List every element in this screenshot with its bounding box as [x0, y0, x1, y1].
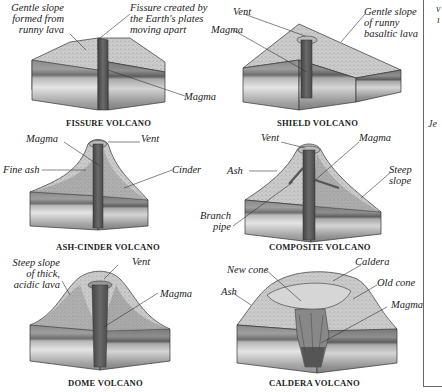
label-magma: Magma [211, 24, 243, 35]
cropped-text-fragment: ı [437, 14, 440, 25]
label-fissure: Fissure created by the Earth's plates mo… [130, 2, 207, 35]
caption-caldera-volcano: CALDERA VOLCANO [269, 378, 360, 388]
panel-dome-volcano: Steep slope of thick, acidic lava Vent M… [0, 255, 221, 392]
caption-shield-volcano: SHIELD VOLCANO [277, 118, 358, 128]
label-vent: Vent [233, 6, 251, 17]
label-new-cone: New cone [227, 264, 268, 275]
label-branch-pipe: Branch pipe [191, 210, 231, 232]
cropped-text-fragment: Je [428, 118, 437, 129]
label-old-cone: Old cone [377, 277, 415, 288]
panel-ash-cinder-volcano: Magma Vent Fine ash Cinder ASH-CINDER VO… [0, 130, 221, 255]
label-gentle-slope-basaltic: Gentle slope of runny basaltic lava [364, 6, 418, 39]
label-gentle-slope: Gentle slope formed from runny lava [4, 2, 64, 35]
adjacent-panel-border-bottom [423, 386, 442, 387]
ash-cinder-volcano-illustration [0, 130, 221, 255]
label-magma: Magma [160, 288, 192, 299]
label-magma: Magma [391, 299, 423, 310]
label-magma: Magma [184, 91, 216, 102]
label-vent: Vent [141, 133, 159, 144]
caldera-volcano-illustration [221, 255, 421, 392]
label-steep-slope: Steep slope [389, 164, 412, 186]
panel-shield-volcano: Vent Gentle slope of runny basaltic lava… [221, 0, 421, 130]
label-steep-slope-acidic: Steep slope of thick, acidic lava [2, 257, 60, 290]
label-vent: Vent [261, 132, 279, 143]
cropped-text-fragment: v [436, 3, 440, 14]
panel-caldera-volcano: New cone Caldera Old cone Ash Magma CALD… [221, 255, 421, 392]
label-vent: Vent [132, 256, 150, 267]
caption-ash-cinder-volcano: ASH-CINDER VOLCANO [56, 242, 160, 252]
label-caldera: Caldera [355, 256, 389, 267]
panel-composite-volcano: Vent Magma Ash Steep slope Branch pipe C… [221, 130, 421, 255]
adjacent-panel-border [423, 0, 424, 386]
label-ash: Ash [221, 286, 237, 297]
panel-fissure-volcano: Gentle slope formed from runny lava Fiss… [0, 0, 221, 130]
label-cinder: Cinder [172, 164, 201, 175]
composite-volcano-illustration [221, 130, 421, 255]
caption-fissure-volcano: FISSURE VOLCANO [66, 118, 151, 128]
label-magma: Magma [26, 133, 58, 144]
caption-dome-volcano: DOME VOLCANO [68, 378, 143, 388]
label-magma: Magma [359, 132, 391, 143]
caption-composite-volcano: COMPOSITE VOLCANO [269, 242, 371, 252]
label-ash: Ash [227, 165, 243, 176]
label-fine-ash: Fine ash [3, 164, 39, 175]
